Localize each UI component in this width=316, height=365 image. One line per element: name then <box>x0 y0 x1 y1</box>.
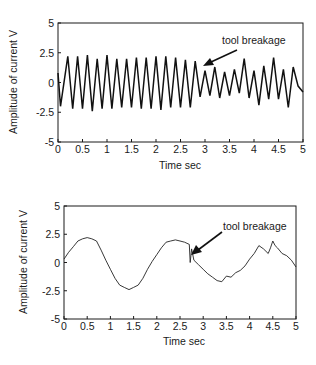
y-tick-label: 0 <box>48 77 54 89</box>
x-axis-label: Time sec <box>163 335 205 347</box>
x-tick-label: 3 <box>202 143 208 155</box>
x-tick-label: 2 <box>153 143 159 155</box>
y-axis-label: Amplitude of current V <box>7 30 19 134</box>
y-axis-ticks: 52.50-2.5-5 <box>36 17 61 148</box>
current-trace <box>58 55 303 111</box>
x-tick-label: 3 <box>200 320 206 332</box>
y-tick-label: 2.5 <box>45 228 60 240</box>
current-trace <box>64 238 296 290</box>
x-tick-label: 0.5 <box>75 143 90 155</box>
x-tick-label: 1 <box>104 143 110 155</box>
x-tick-label: 0.5 <box>80 320 95 332</box>
x-tick-label: 4 <box>251 143 257 155</box>
x-tick-label: 5 <box>293 320 299 332</box>
figure: 52.50-2.5-5 00.511.522.533.544.55 Amplit… <box>0 0 316 365</box>
x-axis-ticks: 00.511.522.533.544.55 <box>55 139 306 155</box>
y-tick-label: -2.5 <box>42 285 60 297</box>
x-tick-label: 0 <box>61 320 67 332</box>
y-tick-label: -5 <box>45 136 54 148</box>
x-tick-label: 5 <box>300 143 306 155</box>
y-axis-ticks: 52.50-2.5-5 <box>42 200 67 325</box>
chart-top: 52.50-2.5-5 00.511.522.533.544.55 Amplit… <box>7 17 306 171</box>
x-axis-label: Time sec <box>159 159 201 171</box>
x-tick-label: 1.5 <box>126 320 141 332</box>
x-tick-label: 1 <box>107 320 113 332</box>
y-axis-label: Amplitude of current V <box>17 210 29 314</box>
x-tick-label: 4.5 <box>271 143 286 155</box>
annotation-label: tool breakage <box>223 220 287 232</box>
x-tick-label: 3.5 <box>219 320 234 332</box>
x-tick-label: 1.5 <box>124 143 139 155</box>
x-axis-ticks: 00.511.522.533.544.55 <box>61 316 299 332</box>
y-tick-label: 2.5 <box>39 47 54 59</box>
annotation-arrow-icon <box>191 232 222 255</box>
x-tick-label: 2.5 <box>173 320 188 332</box>
x-tick-label: 2 <box>154 320 160 332</box>
x-tick-label: 4 <box>247 320 253 332</box>
x-tick-label: 0 <box>55 143 61 155</box>
y-tick-label: -2.5 <box>36 106 54 118</box>
annotation-label: tool breakage <box>222 34 286 46</box>
x-tick-label: 4.5 <box>265 320 280 332</box>
annotation-arrow-icon <box>203 50 237 66</box>
x-tick-label: 2.5 <box>173 143 188 155</box>
y-tick-label: 0 <box>54 257 60 269</box>
y-tick-label: 5 <box>54 200 60 212</box>
x-tick-label: 3.5 <box>222 143 237 155</box>
y-tick-label: -5 <box>51 313 60 325</box>
y-tick-label: 5 <box>48 17 54 29</box>
chart-bottom: 52.50-2.5-5 00.511.522.533.544.55 Amplit… <box>17 200 299 347</box>
